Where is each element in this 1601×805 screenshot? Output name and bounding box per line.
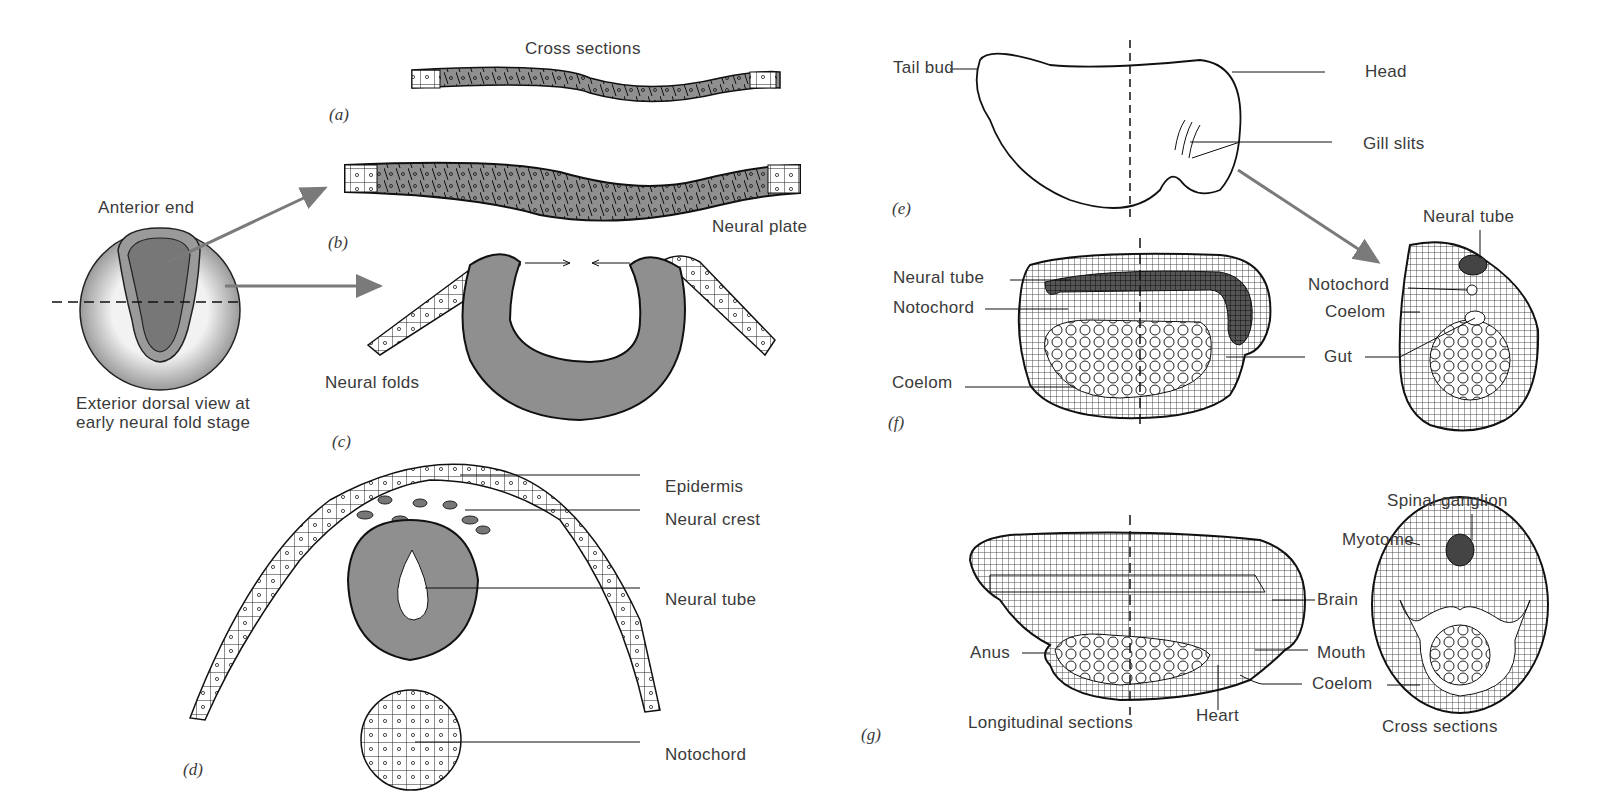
panel-label-g: (g) <box>861 725 881 745</box>
label-notochord-d: Notochord <box>665 745 746 765</box>
label-neural-plate: Neural plate <box>712 217 807 237</box>
arrow-to-cross-f <box>1238 170 1378 262</box>
label-brain: Brain <box>1317 590 1358 610</box>
panel-label-d: (d) <box>183 760 203 780</box>
label-coelom-f: Coelom <box>892 373 952 393</box>
label-neural-crest: Neural crest <box>665 510 760 530</box>
longitudinal-section-g <box>970 515 1305 715</box>
panel-label-a: (a) <box>329 105 349 125</box>
label-spinal-ganglion: Spinal ganglion <box>1387 491 1508 511</box>
label-longitudinal-sections: Longitudinal sections <box>968 713 1133 733</box>
neural-tube-section-d <box>190 464 660 790</box>
label-tail-bud: Tail bud <box>893 58 954 78</box>
label-anterior-end: Anterior end <box>98 198 194 218</box>
label-epidermis: Epidermis <box>665 477 743 497</box>
label-anus: Anus <box>970 643 1010 663</box>
label-notochord-f: Notochord <box>893 298 974 318</box>
panel-label-c: (c) <box>332 432 351 452</box>
label-neural-folds: Neural folds <box>325 373 419 393</box>
neural-plate-section-b <box>345 163 800 221</box>
neural-fold-section-c <box>368 254 775 420</box>
cross-section-f <box>1400 242 1538 430</box>
label-notochord-f-cross: Notochord <box>1308 275 1389 295</box>
cross-section-a <box>412 67 780 101</box>
label-cross-sections-g: Cross sections <box>1382 717 1498 737</box>
label-neural-tube-d: Neural tube <box>665 590 756 610</box>
panel-label-e: (e) <box>892 199 911 219</box>
label-head: Head <box>1365 62 1407 82</box>
label-gut: Gut <box>1324 347 1352 367</box>
label-myotome: Myotome <box>1342 530 1414 550</box>
label-neural-tube-f-cross: Neural tube <box>1423 207 1514 227</box>
longitudinal-section-f <box>1019 238 1271 430</box>
label-mouth: Mouth <box>1317 643 1366 663</box>
panel-label-f: (f) <box>888 413 904 433</box>
panel-label-b: (b) <box>328 233 348 253</box>
label-dorsal-view-caption: Exterior dorsal view at early neural fol… <box>76 394 276 432</box>
dorsal-view-embryo <box>52 228 240 390</box>
label-coelom-g: Coelom <box>1312 674 1372 694</box>
cross-sections-title: Cross sections <box>525 39 641 59</box>
label-gill-slits: Gill slits <box>1363 134 1425 154</box>
label-coelom-f-cross: Coelom <box>1325 302 1385 322</box>
label-neural-tube-f: Neural tube <box>893 268 984 288</box>
label-heart: Heart <box>1196 706 1239 726</box>
